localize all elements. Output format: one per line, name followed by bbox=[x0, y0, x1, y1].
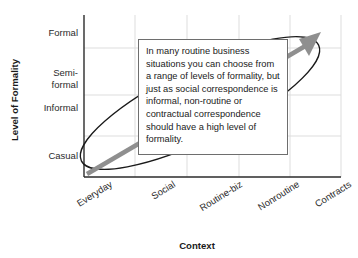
callout-text: In many routine business situations you … bbox=[146, 45, 281, 146]
formality-context-chart: Formal Semi- formal Informal Casual Leve… bbox=[0, 0, 358, 258]
ytick-label-casual: Casual bbox=[48, 150, 78, 161]
xtick-label-contracts: Contracts bbox=[313, 178, 354, 209]
x-axis-title: Context bbox=[179, 240, 216, 251]
y-axis-title: Level of Formality bbox=[9, 58, 20, 141]
ytick-label-semiformal-line1: Semi- bbox=[53, 67, 78, 78]
xtick-label-everyday: Everyday bbox=[75, 178, 115, 208]
callout-box: In many routine business situations you … bbox=[138, 39, 288, 155]
ytick-label-informal: Informal bbox=[44, 102, 78, 113]
xtick-label-nonroutine: Nonroutine bbox=[256, 178, 301, 212]
xtick-label-routine-biz: Routine-biz bbox=[197, 178, 244, 213]
ytick-label-semiformal-line2: formal bbox=[52, 79, 78, 90]
xtick-label-social: Social bbox=[149, 178, 177, 201]
ytick-label-formal: Formal bbox=[48, 27, 78, 38]
